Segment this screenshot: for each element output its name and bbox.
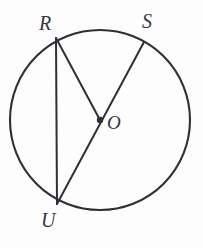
chord-ru <box>56 38 57 204</box>
point-label-r: R <box>39 13 51 33</box>
point-label-o: O <box>107 113 121 132</box>
point-label-u: U <box>41 210 55 230</box>
center-point-dot <box>97 117 103 123</box>
geometry-figure: R S O U <box>0 0 203 248</box>
geometry-canvas <box>0 0 203 248</box>
point-label-s: S <box>142 11 152 31</box>
radius-ro <box>56 38 100 120</box>
